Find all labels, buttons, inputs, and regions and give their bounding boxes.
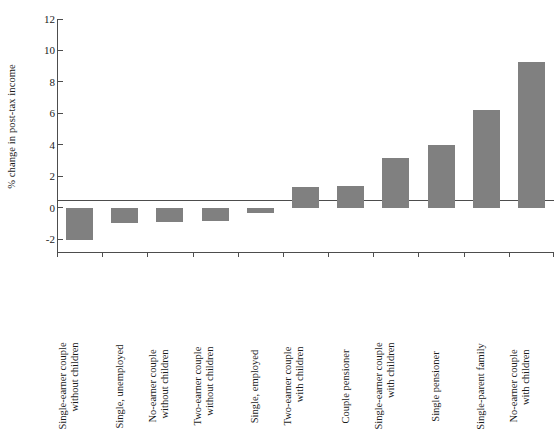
y-tick-label: 2	[50, 170, 56, 182]
x-label-line-2: without children	[204, 347, 216, 426]
x-label-line-1: Single-earner couple	[373, 342, 384, 429]
bar	[202, 208, 229, 221]
y-tick-label: 10	[44, 44, 55, 56]
y-tick-mark	[58, 207, 63, 208]
x-label-line-1: No-earner couple	[508, 349, 519, 422]
x-label-text: No-earner couplewith children	[508, 349, 531, 422]
y-tick-label: 0	[50, 202, 56, 214]
y-tick: -2	[17, 233, 63, 245]
x-label-line-1: Single, employed	[249, 349, 260, 423]
y-tick: 4	[17, 139, 63, 151]
x-label-rotated: Single pensioner	[430, 351, 442, 421]
x-label-slot: Single, employed	[238, 256, 283, 386]
bar	[337, 186, 364, 208]
y-tick-mark	[58, 239, 63, 240]
x-label-line-2: with children	[520, 349, 532, 422]
bar	[292, 187, 319, 207]
y-tick: 12	[17, 13, 63, 25]
x-label-slot: Two-earner couplewith children	[283, 256, 328, 386]
x-label-text: No-earner couplewithout children	[147, 349, 170, 422]
x-label-rotated: No-earner couplewith children	[508, 349, 531, 422]
y-axis-title-text: % change in post-tax income	[6, 64, 17, 189]
y-tick-label: 4	[50, 139, 56, 151]
x-label-text: Single, employed	[249, 349, 261, 423]
x-label-slot: Single-parent family	[464, 256, 509, 386]
y-tick-mark	[58, 144, 63, 145]
x-label-text: Single-earner couplewith children	[373, 342, 396, 429]
x-label-line-2: with children	[384, 342, 396, 429]
x-label-slot: Single-earner couplewith children	[373, 256, 418, 386]
bar	[247, 208, 274, 213]
y-tick: 10	[17, 44, 63, 56]
y-tick-mark	[58, 19, 63, 20]
y-tick: 0	[17, 202, 63, 214]
x-label-line-1: Single-earner couple	[57, 342, 68, 429]
y-tick-mark	[58, 81, 63, 82]
x-label-text: Single pensioner	[430, 351, 442, 421]
x-label-slot: Single, unemployed	[102, 256, 147, 386]
x-label-rotated: Single-parent family	[475, 343, 487, 430]
x-label-rotated: Single, employed	[249, 349, 261, 423]
x-label-line-1: No-earner couple	[147, 349, 158, 422]
x-label-text: Single, unemployed	[113, 344, 125, 428]
y-tick: 8	[17, 76, 63, 88]
bar	[156, 208, 183, 222]
x-label-rotated: Two-earner couplewithout children	[192, 347, 215, 426]
y-tick-mark	[58, 113, 63, 114]
y-tick-mark	[58, 176, 63, 177]
bar	[66, 208, 93, 240]
x-label-text: Single-earner couplewithout children	[57, 342, 80, 429]
x-label-rotated: Single-earner couplewith children	[373, 342, 396, 429]
x-label-rotated: Couple pensioner	[339, 349, 351, 423]
x-axis-line	[57, 252, 554, 253]
y-tick: 6	[17, 107, 63, 119]
x-label-rotated: Single-earner couplewithout children	[57, 342, 80, 429]
y-tick-label: 8	[50, 76, 56, 88]
x-label-line-1: Couple pensioner	[339, 349, 350, 423]
x-label-text: Two-earner couplewith children	[282, 347, 305, 426]
x-label-rotated: Single, unemployed	[113, 344, 125, 428]
x-label-line-1: Single-parent family	[475, 343, 486, 430]
y-axis-title: % change in post-tax income	[0, 0, 22, 252]
bar	[111, 208, 138, 223]
y-tick-mark	[58, 50, 63, 51]
x-label-line-1: Single, unemployed	[113, 344, 124, 428]
x-label-slot: Single pensioner	[418, 256, 463, 386]
x-label-line-1: Two-earner couple	[282, 347, 293, 426]
y-tick: 2	[17, 170, 63, 182]
x-label-slot: Couple pensioner	[328, 256, 373, 386]
x-label-text: Couple pensioner	[339, 349, 351, 423]
bar	[428, 145, 455, 208]
bar	[473, 110, 500, 208]
x-label-rotated: Two-earner couplewith children	[282, 347, 305, 426]
x-label-slot: Two-earner couplewithout children	[193, 256, 238, 386]
x-label-text: Single-parent family	[475, 343, 487, 430]
x-label-line-1: Two-earner couple	[192, 347, 203, 426]
y-tick-label: 6	[50, 107, 56, 119]
x-label-line-1: Single pensioner	[430, 351, 441, 421]
plot-area: -2024681012	[57, 19, 554, 252]
top-edge-artifact	[430, 0, 558, 7]
x-label-slot: Single-earner couplewithout children	[57, 256, 102, 386]
x-label-slot: No-earner couplewithout children	[147, 256, 192, 386]
x-label-slot: No-earner couplewith children	[509, 256, 554, 386]
x-label-line-2: without children	[158, 349, 170, 422]
bar	[518, 62, 545, 208]
x-label-line-2: without children	[68, 342, 80, 429]
y-tick-label: -2	[46, 233, 55, 245]
x-axis-labels: Single-earner couplewithout childrenSing…	[57, 256, 554, 386]
bar	[382, 158, 409, 208]
y-tick-label: 12	[44, 13, 55, 25]
x-label-line-2: with children	[294, 347, 306, 426]
x-label-text: Two-earner couplewithout children	[192, 347, 215, 426]
x-label-rotated: No-earner couplewithout children	[147, 349, 170, 422]
